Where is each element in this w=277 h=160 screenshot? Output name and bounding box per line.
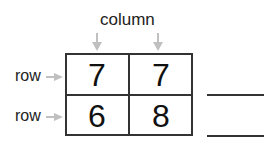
answer-blank-2[interactable] bbox=[207, 135, 264, 137]
row-label-1: row bbox=[15, 67, 41, 85]
down-arrow-icon bbox=[153, 33, 163, 51]
right-arrow-icon bbox=[46, 113, 63, 121]
cell-r1-c2: 7 bbox=[130, 55, 192, 95]
cell-r2-c2: 8 bbox=[130, 96, 192, 136]
cell-r2-c1: 6 bbox=[66, 96, 128, 136]
row-label-2: row bbox=[15, 107, 41, 125]
right-arrow-icon bbox=[46, 73, 63, 81]
cell-r1-c1: 7 bbox=[66, 55, 128, 95]
down-arrow-icon bbox=[92, 33, 102, 51]
answer-blank-1[interactable] bbox=[207, 94, 264, 96]
